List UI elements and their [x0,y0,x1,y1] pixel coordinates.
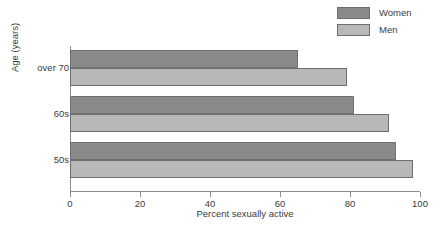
y-tick-label-60s: 60s [54,109,69,119]
bar-over-70-women [70,50,298,68]
plot-area: 020406080100 [70,46,420,192]
x-tick-label-20: 20 [135,199,146,209]
x-tick-80 [350,192,351,197]
legend-label-men: Men [379,25,397,35]
legend-swatch-women [337,7,370,19]
x-tick-40 [210,192,211,197]
legend-label-women: Women [379,8,412,18]
y-tick-label-50s: 50s [54,155,69,165]
legend-item-women: Women [337,6,437,20]
x-axis-line [70,191,420,192]
legend-item-men: Men [337,23,437,37]
bar-60s-women [70,96,354,114]
x-tick-100 [420,192,421,197]
x-tick-label-100: 100 [412,199,428,209]
x-tick-label-0: 0 [67,199,72,209]
y-axis-title: Age (years) [10,23,20,72]
bar-over-70-men [70,68,347,86]
x-tick-0 [70,192,71,197]
x-tick-label-80: 80 [345,199,356,209]
bar-50s-men [70,160,413,178]
chart-legend: Women Men [337,6,437,40]
y-tick-label-over-70: over 70 [37,63,69,73]
x-axis-title: Percent sexually active [70,209,420,219]
bar-60s-men [70,114,389,132]
x-tick-20 [140,192,141,197]
x-tick-60 [280,192,281,197]
bar-chart: Women Men Age (years) over 70 60s 50s 02… [0,0,443,229]
bar-50s-women [70,142,396,160]
legend-swatch-men [337,24,370,36]
